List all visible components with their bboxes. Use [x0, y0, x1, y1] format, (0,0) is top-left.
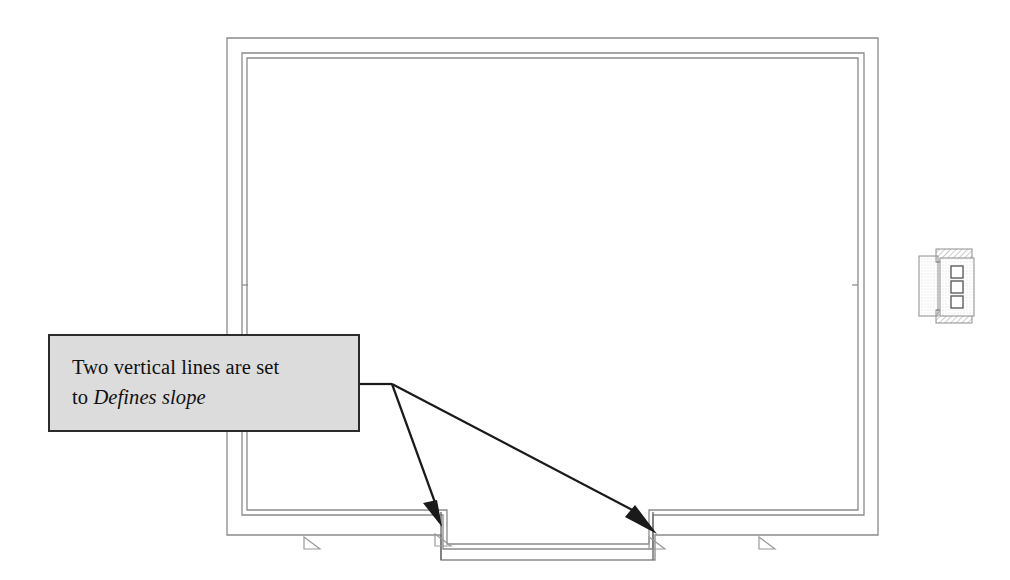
leader-branch-right	[392, 384, 640, 514]
level-markers	[304, 534, 775, 549]
callout-line-1: Two vertical lines are set	[72, 352, 340, 382]
bay-slope-lines	[441, 512, 653, 560]
callout-emphasis: Defines slope	[93, 386, 205, 408]
arrowhead-left	[423, 500, 442, 527]
building-walls	[227, 38, 878, 560]
callout-leader	[360, 384, 640, 514]
drawing-canvas: Two vertical lines are set to Defines sl…	[0, 0, 1010, 580]
detail-square-2	[951, 281, 963, 293]
callout-line-2: to Defines slope	[72, 382, 340, 412]
detail-square-1	[951, 266, 963, 278]
callout-line-2-prefix: to	[72, 386, 93, 408]
level-marker-right	[759, 537, 775, 549]
leader-branch-left	[392, 384, 437, 508]
level-marker-left	[304, 537, 320, 549]
wall-middle-line	[242, 53, 864, 549]
wall-inner-line	[247, 58, 858, 544]
floor-plan-drawing	[0, 0, 1010, 580]
level-marker-bay-right	[649, 537, 665, 549]
callout-box: Two vertical lines are set to Defines sl…	[48, 334, 360, 432]
wall-section-detail	[919, 249, 974, 323]
wall-outer-line	[227, 38, 878, 560]
detail-slab-left	[919, 256, 938, 316]
detail-square-3	[951, 296, 963, 308]
